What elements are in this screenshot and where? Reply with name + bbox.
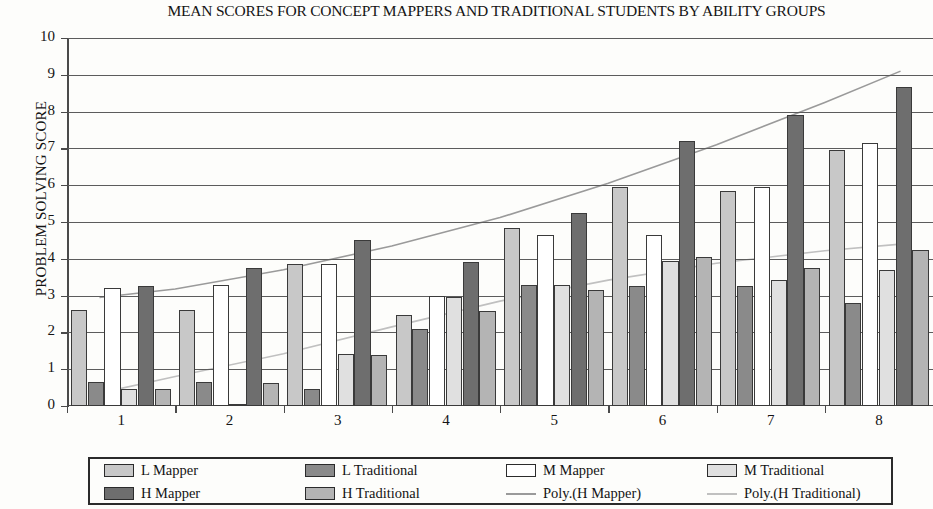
bar — [371, 355, 387, 406]
x-tick-label: 8 — [859, 412, 899, 429]
bar — [213, 285, 229, 406]
bar — [896, 87, 912, 406]
legend-label: M Traditional — [744, 462, 824, 479]
bar — [612, 187, 628, 406]
y-tick-mark — [61, 222, 68, 223]
bar — [229, 404, 245, 406]
legend-swatch-icon — [506, 464, 536, 477]
x-tick-label: 5 — [534, 412, 574, 429]
bar — [679, 141, 695, 406]
y-tick-mark — [61, 332, 68, 333]
bar — [720, 191, 736, 406]
gridline — [67, 112, 933, 113]
x-tick-mark — [392, 405, 393, 413]
bar — [537, 235, 553, 406]
y-tick-mark — [61, 38, 68, 39]
legend-label: H Traditional — [342, 485, 420, 502]
chart-figure: MEAN SCORES FOR CONCEPT MAPPERS AND TRAD… — [0, 0, 933, 509]
plot-area: 01234567891012345678 — [67, 38, 933, 406]
bar — [321, 264, 337, 406]
x-tick-label: 6 — [642, 412, 682, 429]
legend-swatch-icon — [305, 487, 335, 500]
y-tick-mark — [61, 369, 68, 370]
bar — [504, 228, 520, 406]
legend-swatch-icon — [707, 464, 737, 477]
bar — [196, 382, 212, 406]
bar — [287, 264, 303, 406]
y-tick-label: 0 — [25, 397, 55, 412]
bar — [829, 150, 845, 406]
gridline — [67, 75, 933, 76]
chart-legend: L MapperL TraditionalM MapperM Tradition… — [88, 457, 893, 505]
bar — [71, 310, 87, 406]
x-tick-mark — [284, 405, 285, 413]
legend-item[interactable]: Poly.(H Traditional) — [693, 482, 894, 505]
bar — [521, 285, 537, 406]
y-tick-label: 10 — [25, 29, 55, 44]
bar — [479, 311, 495, 406]
x-tick-label: 3 — [318, 412, 358, 429]
y-tick-label: 7 — [25, 139, 55, 154]
legend-label: L Traditional — [342, 462, 418, 479]
y-tick-label: 5 — [25, 213, 55, 228]
legend-swatch-icon — [104, 487, 134, 500]
y-tick-mark — [61, 148, 68, 149]
y-tick-label: 9 — [25, 66, 55, 81]
bar — [304, 389, 320, 406]
legend-item[interactable]: L Mapper — [90, 459, 291, 482]
bar — [646, 235, 662, 406]
bar — [446, 297, 462, 406]
bar — [737, 286, 753, 406]
bar — [862, 143, 878, 406]
y-tick-label: 4 — [25, 250, 55, 265]
bar — [155, 389, 171, 406]
legend-row: L MapperL TraditionalM MapperM Tradition… — [90, 459, 895, 482]
bar — [88, 382, 104, 406]
legend-line-icon — [707, 487, 737, 500]
bar — [554, 285, 570, 406]
y-tick-label: 8 — [25, 103, 55, 118]
bar — [104, 288, 120, 406]
legend-item[interactable]: M Mapper — [492, 459, 693, 482]
legend-item[interactable]: M Traditional — [693, 459, 894, 482]
legend-label: H Mapper — [141, 485, 200, 502]
bar — [179, 310, 195, 406]
legend-label: L Mapper — [141, 462, 198, 479]
bar — [412, 329, 428, 406]
gridline — [67, 38, 933, 39]
bar — [246, 268, 262, 406]
legend-swatch-icon — [104, 464, 134, 477]
legend-line-icon — [506, 487, 536, 500]
y-tick-mark — [61, 259, 68, 260]
bar — [429, 296, 445, 406]
legend-swatch-icon — [305, 464, 335, 477]
x-tick-mark — [825, 405, 826, 413]
y-tick-mark — [61, 185, 68, 186]
x-tick-mark — [67, 405, 68, 413]
legend-item[interactable]: L Traditional — [291, 459, 492, 482]
legend-label: Poly.(H Traditional) — [744, 485, 861, 502]
x-tick-label: 7 — [751, 412, 791, 429]
legend-item[interactable]: H Mapper — [90, 482, 291, 505]
legend-item[interactable]: H Traditional — [291, 482, 492, 505]
x-tick-label: 1 — [101, 412, 141, 429]
bar — [787, 115, 803, 406]
y-tick-label: 1 — [25, 360, 55, 375]
legend-label: M Mapper — [543, 462, 605, 479]
bar — [629, 286, 645, 406]
x-tick-label: 2 — [209, 412, 249, 429]
y-tick-label: 3 — [25, 287, 55, 302]
x-tick-mark — [175, 405, 176, 413]
x-tick-label: 4 — [426, 412, 466, 429]
chart-title: MEAN SCORES FOR CONCEPT MAPPERS AND TRAD… — [60, 2, 933, 20]
y-tick-mark — [61, 112, 68, 113]
bar — [121, 389, 137, 406]
bar — [571, 213, 587, 406]
bar — [662, 261, 678, 406]
bar — [263, 383, 279, 406]
bar — [771, 280, 787, 406]
y-tick-mark — [61, 75, 68, 76]
bar — [588, 290, 604, 406]
bar — [696, 257, 712, 406]
legend-item[interactable]: Poly.(H Mapper) — [492, 482, 693, 505]
